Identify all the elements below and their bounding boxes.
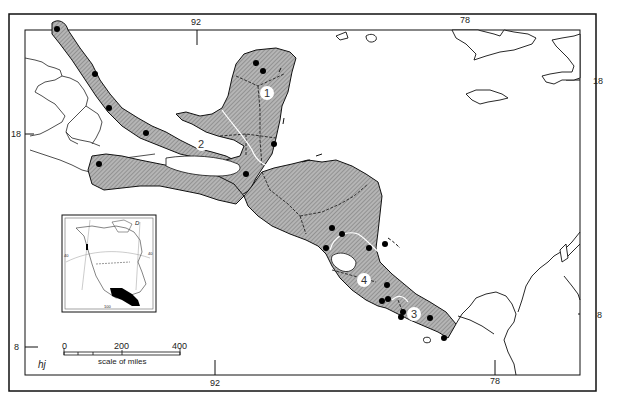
inset-lat-label-right: 40 — [148, 252, 152, 256]
inset-map — [62, 215, 156, 312]
marker — [385, 296, 391, 302]
inset-bottom-label: 100 — [104, 305, 111, 309]
marker — [143, 130, 149, 136]
map-canvas — [0, 0, 619, 401]
inset-lat-label-left: 40 — [64, 254, 68, 258]
marker — [96, 161, 102, 167]
region-label-4: 4 — [361, 275, 367, 286]
lon-label-bottom-92: 92 — [210, 379, 220, 388]
region-label-2: 2 — [198, 139, 204, 150]
marker — [384, 282, 390, 288]
marker — [339, 231, 345, 237]
central-america-region — [244, 160, 456, 338]
scale-tick-0: 0 — [62, 341, 67, 351]
marker — [366, 245, 372, 251]
marker — [260, 68, 266, 74]
lat-label-right-18: 18 — [593, 77, 603, 86]
lat-label-right-8: 8 — [597, 311, 602, 320]
marker — [329, 225, 335, 231]
hispaniola-outline — [542, 34, 580, 84]
lon-label-top-92: 92 — [191, 18, 201, 27]
marker — [441, 335, 447, 341]
lat-label-left-8: 8 — [14, 343, 19, 352]
marker — [253, 60, 259, 66]
lon-label-bottom-78: 78 — [490, 377, 500, 386]
region-label-1: 1 — [264, 88, 270, 99]
scale-caption: scale of miles — [98, 357, 146, 366]
marker — [323, 245, 329, 251]
jamaica-outline — [466, 90, 508, 104]
marker — [92, 71, 98, 77]
inset-corner-letter: D — [135, 220, 139, 226]
lat-label-left-18: 18 — [11, 130, 21, 139]
scale-tick-200: 200 — [114, 341, 129, 351]
marker — [106, 105, 112, 111]
marker — [398, 314, 404, 320]
marker — [243, 171, 249, 177]
isle-of-youth-outline — [366, 34, 376, 42]
marker — [271, 141, 277, 147]
marker — [427, 315, 433, 321]
small-cay-outline — [336, 32, 348, 40]
scale-tick-400: 400 — [172, 341, 187, 351]
marker — [379, 298, 385, 304]
cartographer-signature: hj — [38, 360, 46, 370]
cuba-outline — [452, 30, 536, 60]
marker — [54, 26, 60, 32]
region-label-3: 3 — [411, 309, 417, 320]
lon-label-top-78: 78 — [460, 16, 470, 25]
marker — [382, 241, 388, 247]
